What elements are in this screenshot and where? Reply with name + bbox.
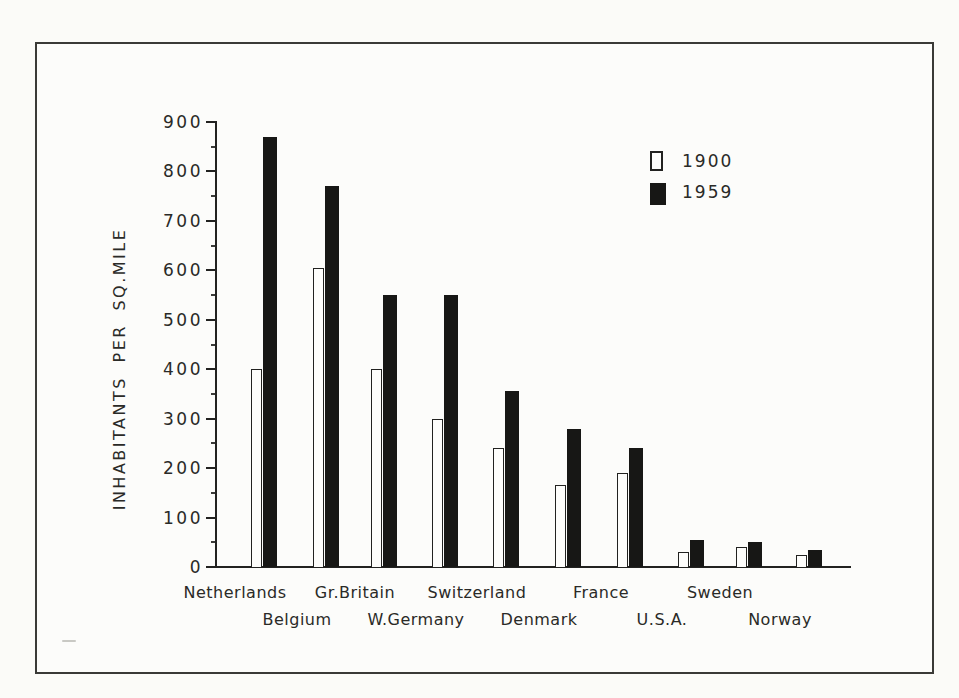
y-minor-tick-550 [211,294,215,296]
x-label-norway: Norway [748,610,812,629]
y-tick-label-200: 200 [145,458,203,478]
y-tick-mark-0 [206,566,215,568]
y-tick-label-600: 600 [145,260,203,280]
x-label-u-s-a: U.S.A. [637,610,688,629]
y-tick-label-400: 400 [145,359,203,379]
y-tick-mark-200 [206,467,215,469]
legend-label-1900: 1900 [682,151,733,171]
x-label-switzerland: Switzerland [428,583,527,602]
x-label-belgium: Belgium [262,610,331,629]
bar-1959-denmark [567,429,581,567]
y-tick-label-900: 900 [145,112,203,132]
y-tick-mark-400 [206,368,215,370]
y-minor-tick-450 [211,344,215,346]
y-tick-mark-300 [206,418,215,420]
bar-1959-belgium [325,186,339,567]
y-tick-label-500: 500 [145,310,203,330]
bar-1900-w-germany [432,419,443,567]
bar-1959-norway [808,550,822,567]
x-label-denmark: Denmark [500,610,577,629]
y-minor-tick-750 [211,195,215,197]
y-minor-tick-850 [211,146,215,148]
bar-1900-france [617,473,628,567]
legend-label-1959: 1959 [682,182,733,202]
y-tick-mark-500 [206,319,215,321]
bar-1900-sweden [736,547,747,567]
y-minor-tick-250 [211,442,215,444]
x-label-w-germany: W.Germany [367,610,464,629]
y-axis-line [215,121,217,568]
y-tick-mark-600 [206,269,215,271]
y-tick-label-700: 700 [145,211,203,231]
bar-1900-switzerland [493,448,504,567]
y-minor-tick-150 [211,492,215,494]
bar-1959-netherlands [263,137,277,567]
scan-smudge-mark [62,640,76,642]
bar-1959-gr-britain [383,295,397,567]
y-tick-label-300: 300 [145,409,203,429]
bar-1959-switzerland [505,391,519,567]
bar-1900-denmark [555,485,566,567]
bar-1959-sweden [748,542,762,567]
y-axis-title: INHABITANTS PER SQ.MILE [110,228,129,511]
bar-1959-france [629,448,643,567]
bar-1900-belgium [313,268,324,567]
y-tick-mark-100 [206,517,215,519]
bar-1900-netherlands [251,369,262,567]
y-tick-mark-900 [206,121,215,123]
x-label-netherlands: Netherlands [183,583,286,602]
legend-swatch-1959-icon [650,183,666,205]
bar-1959-u-s-a [690,540,704,567]
y-minor-tick-350 [211,393,215,395]
figure-border-frame [35,42,934,674]
x-label-france: France [573,583,629,602]
bar-1900-u-s-a [678,552,689,567]
y-tick-label-0: 0 [145,557,203,577]
bar-1900-norway [796,555,807,567]
legend-swatch-1900-icon [650,151,663,171]
y-tick-mark-700 [206,220,215,222]
x-label-sweden: Sweden [687,583,753,602]
bar-1959-w-germany [444,295,458,567]
y-tick-label-800: 800 [145,161,203,181]
y-tick-label-100: 100 [145,508,203,528]
y-minor-tick-650 [211,245,215,247]
y-tick-mark-800 [206,170,215,172]
x-label-gr-britain: Gr.Britain [315,583,395,602]
scanned-figure-page: INHABITANTS PER SQ.MILE 0100200300400500… [0,0,959,698]
bar-1900-gr-britain [371,369,382,567]
y-minor-tick-50 [211,541,215,543]
